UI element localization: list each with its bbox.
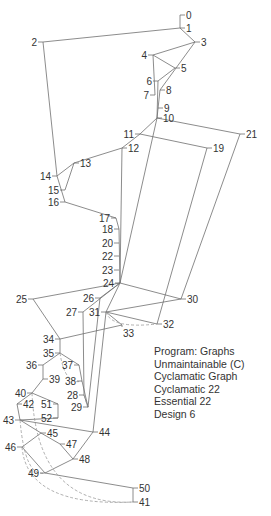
node-17: 17 [99, 213, 116, 224]
node-26: 26 [83, 293, 100, 304]
node-label: 35 [43, 348, 55, 359]
node-5: 5 [175, 63, 187, 74]
node-label: 48 [79, 454, 91, 465]
edge-19-32 [157, 148, 207, 324]
node-49: 49 [28, 468, 45, 479]
node-20: 20 [102, 238, 119, 249]
node-label: 24 [103, 278, 115, 289]
node-label: 1 [186, 23, 192, 34]
node-label: 28 [67, 390, 79, 401]
node-7: 7 [143, 90, 155, 101]
edge-3-4 [153, 42, 195, 55]
node-22: 22 [102, 251, 119, 262]
node-label: 39 [49, 374, 61, 385]
node-label: 8 [166, 85, 172, 96]
edge-48-49 [45, 459, 73, 473]
control-flow-graph: 0123456789101112131415161718192021222324… [0, 0, 271, 516]
node-label: 2 [31, 37, 37, 48]
node-44: 44 [93, 427, 111, 438]
node-label: 23 [102, 265, 114, 276]
node-16: 16 [48, 197, 65, 208]
node-0: 0 [180, 10, 192, 21]
node-label: 21 [246, 129, 258, 140]
edge-18-24 [119, 229, 120, 283]
node-label: 18 [102, 224, 114, 235]
node-label: 11 [124, 129, 135, 140]
node-label: 26 [83, 293, 95, 304]
node-6: 6 [146, 76, 158, 87]
edge-4-5 [153, 55, 175, 68]
node-1: 1 [180, 23, 192, 34]
node-39: 39 [43, 374, 61, 385]
edge-13-15 [65, 163, 74, 190]
node-label: 6 [146, 76, 152, 87]
node-30: 30 [181, 294, 199, 305]
node-label: 7 [143, 90, 149, 101]
node-12: 12 [122, 143, 140, 154]
node-label: 20 [102, 238, 114, 249]
node-32: 32 [157, 319, 175, 330]
node-label: 30 [187, 294, 199, 305]
node-28: 28 [67, 390, 84, 401]
edge-17-18 [116, 218, 119, 229]
edge-33-34 [60, 325, 122, 339]
node-label: 50 [139, 483, 151, 494]
node-31: 31 [89, 307, 106, 318]
edge-2-14 [43, 42, 57, 176]
edge-30-31 [106, 299, 181, 312]
node-27: 27 [66, 307, 83, 318]
edge-42-43 [17, 404, 20, 420]
edge-37-38 [79, 365, 82, 381]
node-2: 2 [31, 37, 43, 48]
node-35: 35 [43, 348, 60, 359]
node-11: 11 [124, 129, 140, 140]
node-label: 47 [66, 439, 78, 450]
node-50: 50 [133, 483, 151, 494]
metrics-legend: Program: Graphs Unmaintainable (C) Cycla… [154, 345, 244, 421]
edge-3-8 [160, 42, 195, 90]
edge-52-43 [20, 418, 58, 420]
node-label: 10 [163, 113, 175, 124]
node-23: 23 [102, 265, 119, 276]
node-label: 44 [99, 427, 111, 438]
node-41: 41 [133, 497, 151, 508]
node-label: 16 [48, 197, 60, 208]
node-label: 31 [89, 307, 101, 318]
node-label: 49 [28, 468, 40, 479]
node-label: 3 [201, 37, 207, 48]
legend-cyclomatic: Cyclamatic 22 [154, 383, 244, 396]
node-18: 18 [102, 224, 119, 235]
node-label: 52 [41, 413, 53, 424]
node-label: 0 [186, 10, 192, 21]
legend-graph-type: Cyclamatic Graph [154, 370, 244, 383]
node-label: 38 [65, 376, 77, 387]
node-label: 17 [99, 213, 111, 224]
node-label: 45 [47, 428, 59, 439]
node-51: 51 [41, 399, 58, 410]
legend-maintainability: Unmaintainable (C) [154, 358, 244, 371]
node-42: 42 [17, 399, 35, 410]
node-label: 42 [23, 399, 35, 410]
graph-nodes: 0123456789101112131415161718192021222324… [3, 10, 258, 508]
node-19: 19 [207, 143, 225, 154]
edge-39-40 [32, 379, 43, 393]
node-37: 37 [62, 360, 79, 371]
node-3: 3 [195, 37, 207, 48]
node-10: 10 [157, 113, 175, 124]
node-label: 19 [213, 143, 225, 154]
node-43: 43 [3, 415, 20, 426]
node-13: 13 [74, 158, 92, 169]
node-label: 46 [5, 442, 17, 453]
node-8: 8 [160, 85, 172, 96]
node-label: 14 [40, 171, 52, 182]
edge-27-28 [83, 312, 84, 395]
node-25: 25 [16, 294, 33, 305]
node-21: 21 [240, 129, 258, 140]
node-24: 24 [103, 278, 120, 289]
node-label: 12 [128, 143, 140, 154]
node-36: 36 [26, 360, 43, 371]
edge-11-19 [140, 134, 207, 148]
node-label: 5 [181, 63, 187, 74]
node-label: 37 [62, 360, 74, 371]
legend-essential: Essential 22 [154, 395, 244, 408]
